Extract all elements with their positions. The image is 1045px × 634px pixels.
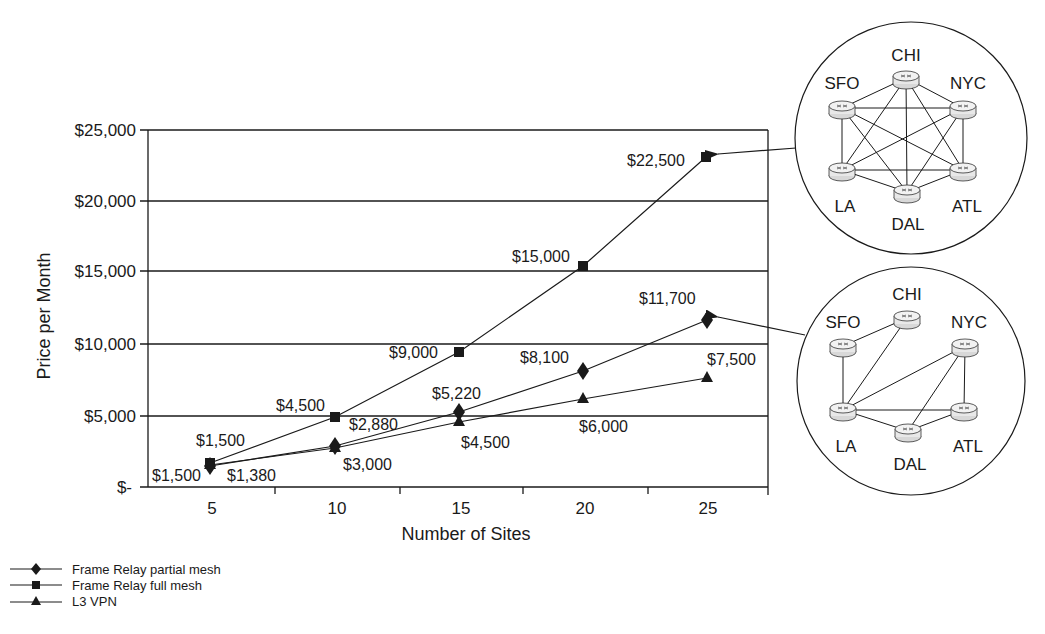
- legend-label: Frame Relay partial mesh: [72, 562, 221, 577]
- node-label-sfo: SFO: [826, 313, 861, 332]
- legend-label: L3 VPN: [72, 594, 117, 609]
- router-icon: [950, 163, 976, 181]
- chart-canvas: $25,000 $20,000 $15,000 $10,000 $5,000 $…: [0, 0, 1045, 634]
- data-label: $15,000: [512, 248, 570, 265]
- triangle-marker-icon: [10, 595, 62, 607]
- data-label: $5,220: [432, 385, 481, 402]
- triangle-marker: [577, 392, 589, 403]
- data-label: $8,100: [520, 349, 569, 366]
- router-icon: [952, 339, 978, 357]
- node-label-chi: CHI: [891, 46, 920, 65]
- legend-item-l3-vpn: L3 VPN: [10, 593, 221, 609]
- data-label: $1,500: [196, 432, 245, 449]
- legend-label: Frame Relay full mesh: [72, 578, 202, 593]
- node-label-atl: ATL: [953, 437, 983, 456]
- x-tick-label: 20: [576, 499, 595, 518]
- data-label: $22,500: [627, 152, 685, 169]
- y-tick-labels: $25,000 $20,000 $15,000 $10,000 $5,000 $…: [75, 121, 136, 497]
- legend-item-fr-partial-mesh: Frame Relay partial mesh: [10, 561, 221, 577]
- node-label-atl: ATL: [952, 197, 982, 216]
- data-label: $6,000: [579, 418, 628, 435]
- router-icon: [829, 101, 855, 119]
- callout-arrow-full-mesh: [718, 148, 796, 154]
- y-tick-label: $15,000: [75, 262, 136, 281]
- router-icon: [894, 311, 920, 329]
- node-label-chi: CHI: [892, 285, 921, 304]
- router-icon: [893, 71, 919, 89]
- data-label: $1,380: [227, 467, 276, 484]
- router-icon: [950, 101, 976, 119]
- x-axis-title: Number of Sites: [401, 524, 530, 544]
- router-icon: [951, 403, 977, 421]
- data-label: $3,000: [343, 456, 392, 473]
- chart-legend: Frame Relay partial mesh Frame Relay ful…: [10, 561, 221, 609]
- square-marker: [330, 412, 340, 422]
- y-tick-label: $25,000: [75, 121, 136, 140]
- data-label: $9,000: [389, 344, 438, 361]
- x-tick-label: 15: [452, 499, 471, 518]
- callout-arrow-partial-mesh: [718, 317, 805, 335]
- y-tick-label: $5,000: [84, 407, 136, 426]
- data-label: $2,880: [349, 416, 398, 433]
- node-label-dal: DAL: [893, 455, 926, 474]
- node-label-la: LA: [835, 197, 856, 216]
- data-labels: $1,500 $4,500 $9,000 $15,000 $22,500 $1,…: [152, 152, 756, 484]
- node-label-la: LA: [836, 437, 857, 456]
- node-label-nyc: NYC: [951, 313, 987, 332]
- y-axis-title: Price per Month: [34, 252, 54, 379]
- router-icon: [894, 185, 920, 203]
- y-tick-label: $-: [117, 478, 132, 497]
- diamond-marker: [701, 311, 713, 329]
- full-mesh-topology-diagram: CHI SFO NYC LA DAL ATL: [795, 22, 1027, 254]
- data-label: $1,500: [152, 467, 201, 484]
- square-marker: [701, 152, 711, 162]
- data-label: $4,500: [461, 434, 510, 451]
- node-label-sfo: SFO: [825, 74, 860, 93]
- diamond-marker-icon: [10, 563, 62, 575]
- x-tick-labels: 5 10 15 20 25: [207, 499, 717, 518]
- data-label: $7,500: [707, 351, 756, 368]
- data-label: $11,700: [639, 290, 696, 307]
- node-label-nyc: NYC: [950, 74, 986, 93]
- x-tick-label: 25: [699, 499, 718, 518]
- router-icon: [830, 403, 856, 421]
- square-marker: [578, 261, 588, 271]
- square-marker: [454, 347, 464, 357]
- node-label-dal: DAL: [891, 215, 924, 234]
- x-tick-label: 5: [207, 499, 216, 518]
- diamond-marker: [577, 362, 589, 380]
- y-tick-label: $20,000: [75, 192, 136, 211]
- router-icon: [830, 339, 856, 357]
- partial-mesh-topology-diagram: CHI SFO NYC LA DAL ATL: [797, 267, 1025, 495]
- triangle-marker: [701, 371, 713, 382]
- router-icon: [895, 424, 921, 442]
- y-tick-label: $10,000: [75, 335, 136, 354]
- x-tick-label: 10: [328, 499, 347, 518]
- legend-item-fr-full-mesh: Frame Relay full mesh: [10, 577, 221, 593]
- square-marker-icon: [10, 579, 62, 591]
- data-label: $4,500: [276, 397, 325, 414]
- router-icon: [829, 163, 855, 181]
